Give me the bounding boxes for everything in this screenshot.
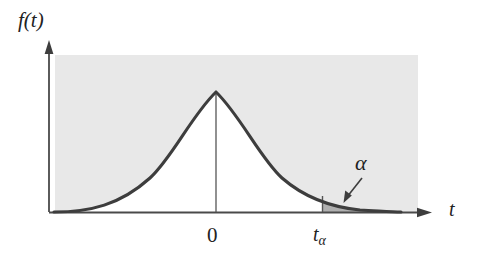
y-axis <box>45 40 54 212</box>
t-distribution-figure: f(t) t 0 tα α <box>0 0 487 257</box>
t-alpha-tick-label: tα <box>313 223 326 249</box>
origin-tick-label: 0 <box>207 223 218 248</box>
t-alpha-subscript: α <box>319 233 326 248</box>
alpha-area-label: α <box>355 150 367 176</box>
distribution-diagram-svg <box>0 0 487 257</box>
y-axis-label: f(t) <box>18 8 44 33</box>
x-axis-label: t <box>449 198 455 221</box>
